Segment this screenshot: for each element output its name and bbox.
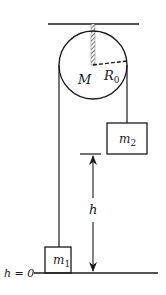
pulley-mass-label: M bbox=[77, 72, 92, 87]
pulley-support-rod bbox=[91, 24, 95, 65]
atwood-machine-diagram: M R0 m2 m1 h h = 0 bbox=[0, 0, 166, 295]
height-label: h bbox=[89, 202, 97, 217]
pulley-radius-line bbox=[93, 61, 127, 65]
ground-level-label: h = 0 bbox=[4, 267, 34, 280]
pulley-radius-label: R0 bbox=[103, 68, 120, 85]
